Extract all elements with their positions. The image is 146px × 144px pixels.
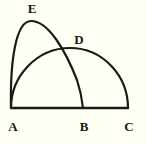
geometric-figure: E D A B C — [0, 0, 146, 144]
arc-large-semicircle-AC — [11, 48, 128, 108]
vertex-label-D: D — [71, 33, 87, 46]
vertex-label-B: B — [76, 120, 92, 133]
vertex-label-C: C — [121, 120, 137, 133]
vertex-label-E: E — [24, 2, 40, 15]
vertex-label-A: A — [5, 120, 21, 133]
